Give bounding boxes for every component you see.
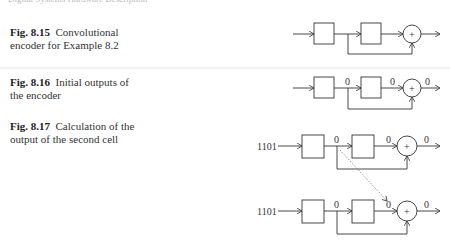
wire-value-mid: 0 [334,199,339,210]
wire-value-mid: 0 [334,134,339,145]
encoder-diagrams: + + 0 0 0 1101 + 0 0 0 [0,0,450,241]
wire-value-pre-xor: 0 [386,134,391,145]
wire-value-output: 0 [425,76,430,87]
input-sequence: 1101 [257,206,277,217]
wire-value-output: 0 [424,199,429,210]
wire-value-mid: 0 [345,76,350,87]
encoder-diagram-fig-8-16 [293,77,440,109]
encoder-diagram-fig-8-17-top [278,135,440,169]
wire-value-pre-xor: 0 [390,76,395,87]
shift-register-cell-2 [361,23,381,44]
wire-value-output: 0 [424,134,429,145]
xor-symbol: + [409,83,415,94]
xor-symbol: + [404,206,410,217]
wire-value-pre-xor: 0 [386,199,391,210]
encoder-diagram-fig-8-15 [293,23,440,54]
input-sequence: 1101 [257,141,277,152]
encoder-diagram-fig-8-17-bottom [278,200,440,234]
xor-symbol: + [404,141,410,152]
xor-symbol: + [409,29,415,40]
shift-register-cell-1 [314,23,334,44]
